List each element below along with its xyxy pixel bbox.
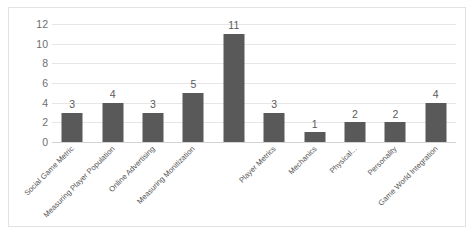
plot-area: 024681012 34351131224 [52,24,456,142]
bar-value-label: 1 [312,119,318,130]
y-axis-tick-label: 10 [8,38,48,49]
bar-value-label: 4 [433,89,439,100]
bar-column: 3 [52,24,92,142]
x-axis-label-slot: Physical... [335,142,375,222]
bar-value-label: 2 [392,109,398,120]
x-axis-label-slot: Game World Integration [416,142,456,222]
bar-value-label: 2 [352,109,358,120]
bar-value-label: 11 [228,20,239,31]
x-axis-label-slot: Player Metrics [254,142,294,222]
x-axis-label-slot: Mechanics [294,142,334,222]
y-axis-tick-label: 4 [8,97,48,108]
y-axis-tick-label: 12 [8,19,48,30]
bar-column: 3 [254,24,294,142]
x-axis-label-slot: Measuring Monitization [173,142,213,222]
bar-value-label: 3 [69,99,75,110]
bar-value-label: 3 [271,99,277,110]
y-axis-tick-label: 0 [8,137,48,148]
y-axis-tick-label: 6 [8,78,48,89]
bar-value-label: 5 [190,79,196,90]
y-axis-tick-label: 2 [8,117,48,128]
bar-chart-figure: 024681012 34351131224 Social Game Metric… [0,0,476,243]
y-axis-tick-label: 8 [8,58,48,69]
bar[interactable] [223,34,244,142]
bar-value-label: 4 [110,89,116,100]
x-axis-label-slot [214,142,254,222]
x-axis-category-labels: Social Game MetricMeasuring Player Popul… [52,142,456,222]
